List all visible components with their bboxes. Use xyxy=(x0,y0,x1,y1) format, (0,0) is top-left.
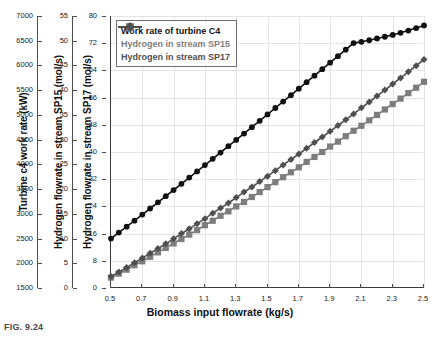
tick-mark xyxy=(73,115,77,116)
data-point-marker xyxy=(249,124,255,130)
tick-mark xyxy=(73,189,77,190)
tick-mark xyxy=(102,43,106,44)
data-point-marker xyxy=(421,22,427,28)
data-point-marker xyxy=(272,179,278,185)
figure-caption: FIG. 9.24 xyxy=(4,322,43,332)
tick-mark xyxy=(73,164,77,165)
tick-mark xyxy=(102,152,106,153)
data-point-marker xyxy=(304,159,310,165)
tick-label: 7000 xyxy=(3,11,33,20)
tick-label: 35 xyxy=(38,110,68,119)
data-point-marker xyxy=(312,73,318,79)
data-point-marker xyxy=(374,112,380,118)
data-point-marker xyxy=(296,164,302,170)
tick-label: 80 xyxy=(67,11,97,20)
tick-label: 25 xyxy=(38,159,68,168)
tick-mark xyxy=(73,239,77,240)
tick-mark xyxy=(141,284,142,288)
tick-mark xyxy=(102,261,106,262)
data-point-marker xyxy=(233,203,239,209)
data-point-marker xyxy=(366,37,372,43)
data-point-marker xyxy=(194,227,200,233)
tick-mark xyxy=(392,284,393,288)
tick-mark xyxy=(102,125,106,126)
data-point-marker xyxy=(202,222,208,228)
tick-label: 0.5 xyxy=(95,294,125,303)
axis-title-x: Biomass input flowrate (kg/s) xyxy=(0,306,440,318)
data-point-marker xyxy=(210,218,216,224)
tick-label: 0.9 xyxy=(158,294,188,303)
data-point-marker xyxy=(413,25,419,31)
tick-mark xyxy=(173,284,174,288)
data-point-marker xyxy=(116,230,122,236)
tick-mark xyxy=(329,284,330,288)
tick-mark xyxy=(73,90,77,91)
data-point-marker xyxy=(296,86,302,92)
data-point-marker xyxy=(351,40,357,46)
tick-mark xyxy=(102,234,106,235)
series-line xyxy=(111,60,424,277)
data-point-marker xyxy=(217,213,223,219)
data-point-marker xyxy=(382,106,388,112)
tick-mark xyxy=(102,179,106,180)
tick-label: 1.5 xyxy=(252,294,282,303)
tick-label: 6000 xyxy=(3,60,33,69)
data-point-marker xyxy=(390,101,396,107)
data-point-marker xyxy=(358,123,364,129)
figure-container: Turbine c4 work rate (kW) 15002000250030… xyxy=(0,0,440,341)
data-point-marker xyxy=(147,206,153,212)
data-point-marker xyxy=(139,212,145,218)
data-point-marker xyxy=(210,156,216,162)
tick-mark xyxy=(102,288,106,289)
data-point-marker xyxy=(382,34,388,40)
tick-label: 2500 xyxy=(3,234,33,243)
data-point-marker xyxy=(179,181,185,187)
data-point-marker xyxy=(397,95,403,101)
data-point-marker xyxy=(155,199,161,205)
tick-mark xyxy=(423,284,424,288)
tick-label: 1.9 xyxy=(314,294,344,303)
data-point-marker xyxy=(186,231,192,237)
data-point-marker xyxy=(398,30,404,36)
tick-label: 1.1 xyxy=(189,294,219,303)
tick-label: 20 xyxy=(38,184,68,193)
tick-label: 2.3 xyxy=(377,294,407,303)
tick-label: 24 xyxy=(67,201,97,210)
data-point-marker xyxy=(311,154,317,160)
tick-label: 1.3 xyxy=(220,294,250,303)
axis-line-work-rate xyxy=(37,16,38,288)
data-point-marker xyxy=(374,36,380,42)
series-diamond xyxy=(108,56,428,280)
axis-title-sp15: Hydrogen flowrate in stream SP15 (mol/s) xyxy=(53,16,64,288)
data-point-marker xyxy=(319,66,325,72)
legend-item-sp17[interactable]: Hydrogen in stream SP17 xyxy=(120,50,230,63)
data-point-marker xyxy=(265,112,271,118)
data-point-marker xyxy=(288,169,294,175)
data-point-marker xyxy=(366,117,372,123)
data-point-marker xyxy=(288,92,294,98)
legend-marker-diamond-icon xyxy=(117,21,143,33)
data-point-marker xyxy=(249,194,255,200)
tick-label: 40 xyxy=(67,147,97,156)
tick-label: 1.7 xyxy=(283,294,313,303)
data-point-marker xyxy=(390,32,396,38)
tick-label: 5 xyxy=(38,258,68,267)
tick-mark xyxy=(102,70,106,71)
tick-mark xyxy=(235,284,236,288)
tick-label: 8 xyxy=(67,256,97,265)
data-point-marker xyxy=(132,218,138,224)
tick-label: 1500 xyxy=(3,283,33,292)
tick-label: 50 xyxy=(38,36,68,45)
tick-mark xyxy=(73,214,77,215)
legend-item-sp15[interactable]: Hydrogen in stream SP15 xyxy=(120,37,230,50)
data-point-marker xyxy=(335,53,341,59)
tick-mark xyxy=(73,140,77,141)
data-point-marker xyxy=(218,150,224,156)
data-point-marker xyxy=(319,149,325,155)
tick-label: 4000 xyxy=(3,159,33,168)
tick-label: 5000 xyxy=(3,110,33,119)
data-point-marker xyxy=(304,79,310,85)
legend-label-sp17: Hydrogen in stream SP17 xyxy=(120,52,230,62)
tick-label: 6500 xyxy=(3,36,33,45)
tick-label: 4500 xyxy=(3,135,33,144)
